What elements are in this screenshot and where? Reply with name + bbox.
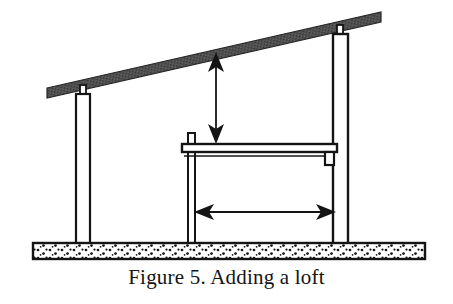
joist-hanger-bracket (325, 152, 334, 165)
right-post-body (333, 34, 348, 245)
loft-construction-diagram (0, 0, 453, 304)
roof-beam (47, 12, 381, 98)
joist-hanger-body (325, 152, 334, 165)
loft-beam-rail (182, 144, 337, 152)
concrete-slab (33, 243, 425, 259)
figure-container: Figure 5. Adding a loft (0, 0, 453, 304)
slab-body (33, 243, 425, 259)
left-post-body (76, 94, 90, 245)
figure-caption: Figure 5. Adding a loft (0, 264, 453, 290)
loft-floor-beam (182, 144, 337, 156)
left-support-post (76, 85, 90, 245)
headroom-dimension-arrow (208, 52, 224, 144)
loft-span-dimension-arrow (194, 204, 336, 220)
roof-beam-body (47, 12, 381, 98)
